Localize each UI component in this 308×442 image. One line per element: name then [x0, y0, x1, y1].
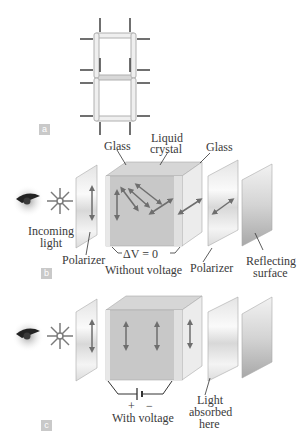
eye-icon	[12, 185, 44, 217]
seven-segment-display	[80, 18, 150, 135]
light-source-star-icon	[47, 323, 73, 349]
polarizer-left	[76, 165, 97, 248]
label-liquid-crystal-2: crystal	[150, 143, 182, 155]
liquid-crystal-cell	[106, 162, 202, 246]
label-without-voltage: Without voltage	[105, 264, 182, 276]
liquid-crystal-cell	[106, 296, 202, 380]
polarizer-left	[76, 299, 97, 381]
label-with-voltage: With voltage	[112, 412, 174, 424]
panel-c-with-voltage	[12, 296, 272, 400]
light-source-star-icon	[47, 188, 73, 214]
panel-tag-c: c	[41, 420, 52, 431]
polarizer-right	[208, 160, 238, 246]
label-polarizer-right: Polarizer	[190, 262, 233, 274]
label-polarizer-left: Polarizer	[62, 254, 105, 266]
label-light-absorbed-3: here	[199, 418, 220, 430]
label-delta-v: ΔV = 0	[123, 248, 158, 260]
reflecting-surface	[242, 164, 272, 246]
eye-icon	[12, 320, 44, 352]
battery-icon	[108, 381, 172, 400]
lcd-diagram	[0, 0, 308, 442]
panel-tag-b: b	[41, 268, 52, 279]
label-reflecting-surface-2: surface	[253, 267, 288, 279]
reflecting-surface	[242, 297, 272, 378]
label-incoming-light-2: light	[40, 237, 62, 249]
label-glass-left: Glass	[104, 140, 131, 152]
panel-tag-a: a	[39, 124, 50, 135]
label-glass-right: Glass	[206, 141, 233, 153]
polarizer-right	[208, 297, 238, 381]
